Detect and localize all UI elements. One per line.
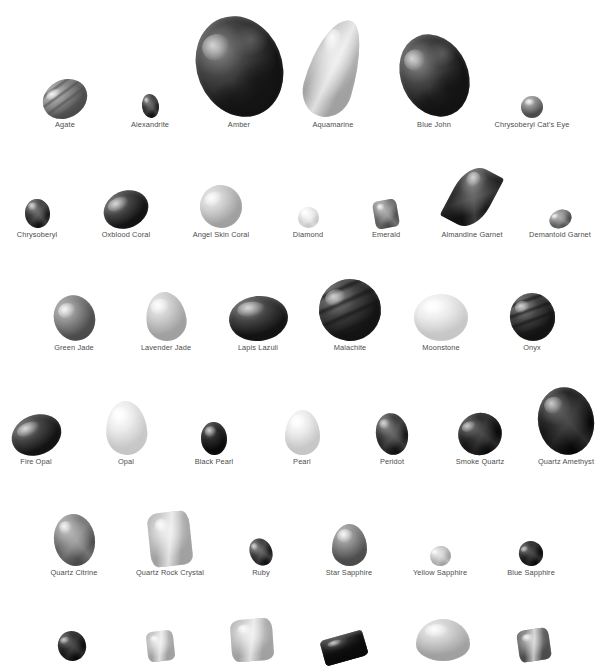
gem-label: Chrysoberyl Cat's Eye <box>462 120 602 129</box>
gem-inner <box>201 422 227 455</box>
gem-thumbnail <box>322 630 366 661</box>
gem-thumbnail <box>54 285 95 341</box>
gem-inner <box>285 410 320 455</box>
gem-row: ChrysoberylOxblood CoralAngel Skin Coral… <box>0 170 611 242</box>
gem-inner <box>58 631 86 661</box>
gem-thumbnail <box>25 170 50 228</box>
gem-thumbnail <box>376 395 408 455</box>
gem-image <box>104 400 149 457</box>
gem-image <box>414 294 468 341</box>
gem-body <box>533 383 600 460</box>
plate-title-cropped <box>0 0 611 7</box>
gem-image <box>373 411 412 458</box>
gem-inner <box>146 292 186 341</box>
gem-cell[interactable]: Onyx <box>462 285 602 352</box>
gem-body <box>97 183 154 236</box>
gem-body <box>200 421 228 456</box>
gem-label: Blue Sapphire <box>461 568 601 577</box>
gem-thumbnail <box>521 8 543 118</box>
gem-image <box>245 535 276 570</box>
gem-body <box>416 619 470 661</box>
gem-row <box>0 630 611 670</box>
gem-cell[interactable] <box>464 630 604 663</box>
gem-body <box>50 511 98 568</box>
gem-cell[interactable]: Demantoid Garnet <box>490 170 611 239</box>
gem-label: Quartz Amethyst <box>496 457 611 466</box>
gem-inner <box>430 546 451 566</box>
gem-row: Quartz CitrineQuartz Rock CrystalRubySta… <box>0 508 611 580</box>
gem-thumbnail <box>374 170 398 228</box>
gem-body <box>145 630 175 663</box>
gem-image <box>319 629 368 666</box>
gem-body <box>515 537 547 570</box>
gem-body <box>319 629 368 666</box>
gem-body <box>414 294 468 341</box>
gem-cell[interactable]: Quartz Amethyst <box>496 395 611 466</box>
gem-image <box>285 410 320 455</box>
gem-thumbnail <box>200 170 242 228</box>
gem-thumbnail <box>416 630 470 661</box>
gem-label: Onyx <box>462 343 602 352</box>
gem-cell[interactable]: Chrysoberyl Cat's Eye <box>462 8 602 129</box>
gem-body <box>373 411 412 458</box>
gem-body <box>516 627 552 663</box>
gem-body <box>296 13 371 123</box>
gem-thumbnail <box>54 508 95 566</box>
gem-image <box>143 289 189 343</box>
gem-inner <box>322 635 366 661</box>
gem-thumbnail <box>106 395 147 455</box>
gem-inner <box>142 94 159 118</box>
gem-row: AgateAlexandriteAmberAquamarineBlue John… <box>0 8 611 132</box>
gem-image <box>50 511 98 568</box>
gem-inner <box>510 293 555 341</box>
gem-image <box>427 543 453 569</box>
gem-inner <box>332 524 367 566</box>
gem-body <box>372 198 400 230</box>
gem-inner <box>519 541 543 566</box>
gem-inner <box>250 538 272 566</box>
gem-image <box>54 627 90 664</box>
gem-inner <box>54 514 95 566</box>
gem-body <box>47 289 101 346</box>
gem-thumbnail <box>538 395 594 455</box>
gem-thumbnail <box>147 630 174 661</box>
gem-thumbnail <box>309 8 358 118</box>
gem-image <box>332 524 367 566</box>
gem-inner <box>521 96 543 118</box>
gem-thumbnail <box>401 8 468 118</box>
gem-label: Demantoid Garnet <box>490 230 611 239</box>
gem-thumbnail <box>142 8 159 118</box>
gem-row: Green JadeLavender JadeLapis LazuliMalac… <box>0 285 611 355</box>
gem-body <box>546 206 574 231</box>
gem-image <box>516 627 552 663</box>
gem-image <box>515 537 547 570</box>
gem-thumbnail <box>519 508 543 566</box>
gem-inner <box>200 185 242 228</box>
gem-thumbnail <box>549 170 572 228</box>
gem-thumbnail <box>146 285 186 341</box>
gem-thumbnail <box>58 630 86 661</box>
gem-body <box>245 535 276 570</box>
gem-body <box>54 627 90 664</box>
gem-row: Fire OpalOpalBlack PearlPearlPeridotSmok… <box>0 395 611 469</box>
gem-inner <box>231 619 273 661</box>
gem-cell[interactable]: Blue Sapphire <box>461 508 601 577</box>
gem-thumbnail <box>11 395 62 455</box>
gem-image <box>416 619 470 661</box>
gem-inner <box>538 387 594 455</box>
gem-inner <box>149 512 191 566</box>
gem-inner <box>106 401 147 455</box>
gem-body <box>104 400 149 457</box>
gem-image <box>146 510 193 568</box>
gem-body <box>505 289 559 345</box>
gem-thumbnail <box>103 170 149 228</box>
gem-body <box>427 543 453 569</box>
gem-thumbnail <box>452 170 492 228</box>
gem-thumbnail <box>250 508 272 566</box>
gem-inner <box>25 199 50 228</box>
gem-image <box>521 96 543 118</box>
gem-inner <box>414 294 468 341</box>
gem-image <box>546 206 574 231</box>
gem-thumbnail <box>414 285 468 341</box>
